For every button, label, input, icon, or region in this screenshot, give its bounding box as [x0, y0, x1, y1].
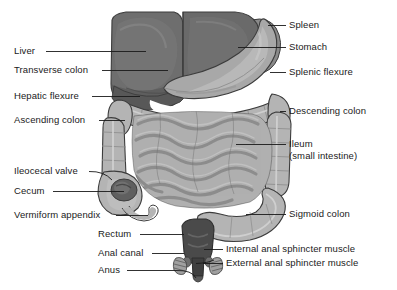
label-internal-anal-sphincter: Internal anal sphincter muscle	[226, 243, 355, 254]
structure-ileocecal-valve	[111, 179, 137, 201]
anatomy-figure: Liver Transverse colon Hepatic flexure A…	[0, 0, 397, 290]
label-splenic-flexure: Splenic flexure	[289, 66, 353, 77]
label-cecum: Cecum	[14, 185, 45, 196]
label-spleen: Spleen	[289, 19, 319, 30]
label-ileocecal-valve: Ileocecal valve	[14, 165, 78, 176]
structure-anal-canal	[192, 258, 204, 276]
label-stomach: Stomach	[289, 41, 327, 52]
label-hepatic-flexure: Hepatic flexure	[14, 90, 79, 101]
label-ascending-colon: Ascending colon	[14, 114, 85, 125]
label-sigmoid-colon: Sigmoid colon	[289, 208, 350, 219]
label-transverse-colon: Transverse colon	[14, 64, 88, 75]
organ-ileum	[128, 104, 278, 212]
label-descending-colon: Descending colon	[289, 105, 366, 116]
label-ileum: Ileum	[289, 138, 313, 149]
structure-anus	[193, 276, 203, 282]
label-liver: Liver	[14, 45, 35, 56]
label-external-anal-sphincter: External anal sphincter muscle	[226, 257, 358, 268]
label-rectum: Rectum	[98, 228, 131, 239]
label-anal-canal: Anal canal	[98, 247, 143, 258]
label-vermiform-appendix: Vermiform appendix	[14, 209, 100, 220]
leader-anus	[127, 270, 196, 278]
label-ileum-subtitle: (small intestine)	[289, 150, 357, 161]
label-anus: Anus	[98, 264, 120, 275]
